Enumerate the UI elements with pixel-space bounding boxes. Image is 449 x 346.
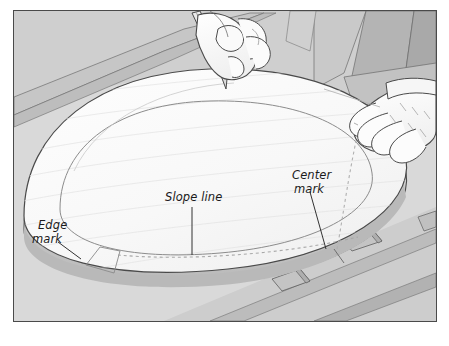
callout-edge-mark-line-1: Edge [38, 218, 67, 232]
scene-content: Edge mark Slope line Center mark [14, 11, 436, 321]
woodworking-scene: Edge mark Slope line Center mark [14, 11, 436, 321]
illustration-stage: Edge mark Slope line Center mark [0, 0, 449, 346]
callout-center-mark-line-2: mark [294, 182, 325, 196]
illustration-frame: Edge mark Slope line Center mark [13, 10, 437, 322]
callout-slope-line: Slope line [165, 190, 222, 204]
callout-center-mark-line-1: Center [292, 168, 332, 182]
callout-edge-mark-line-2: mark [32, 232, 63, 246]
